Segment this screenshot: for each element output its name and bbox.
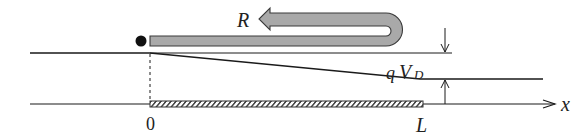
label-v: V	[399, 62, 411, 82]
particle-dot	[136, 36, 147, 47]
hatched-region	[150, 101, 423, 107]
potential-profile-line	[30, 53, 543, 79]
qvd-dimension-arrows	[441, 28, 449, 104]
label-origin: 0	[146, 115, 155, 133]
label-q: q	[386, 64, 395, 82]
diagram-canvas	[0, 0, 581, 137]
label-r: R	[237, 10, 249, 30]
label-d-subscript: D	[414, 68, 423, 81]
label-x-axis: x	[561, 94, 570, 114]
label-length: L	[416, 115, 427, 135]
reflection-arrow-icon	[150, 8, 403, 46]
